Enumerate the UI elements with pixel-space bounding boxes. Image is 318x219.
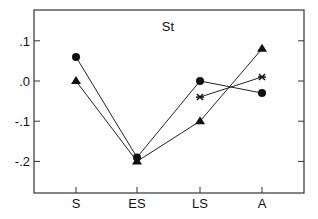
series-group xyxy=(71,44,267,165)
circle-marker xyxy=(258,89,266,97)
star-marker xyxy=(196,94,204,100)
x-tick-label: LS xyxy=(192,196,208,211)
x-axis: SESLSA xyxy=(72,187,267,211)
circle-marker xyxy=(196,77,204,85)
y-axis: .1.0-.1-.2 xyxy=(15,34,304,170)
triangle-series-line xyxy=(76,49,262,162)
circle-marker xyxy=(72,53,80,61)
x-tick-label: S xyxy=(72,196,81,211)
triangle-marker xyxy=(257,44,267,52)
y-tick-label: -.2 xyxy=(15,154,30,169)
circle-series-line xyxy=(76,57,262,158)
y-tick-label: .0 xyxy=(19,74,30,89)
y-tick-label: -.1 xyxy=(15,114,30,129)
star-marker xyxy=(258,74,266,80)
star-series-line xyxy=(200,77,262,97)
x-tick-label: A xyxy=(258,196,267,211)
plot-frame xyxy=(34,10,304,193)
y-tick-label: .1 xyxy=(19,34,30,49)
triangle-marker xyxy=(71,76,81,84)
x-tick-label: ES xyxy=(128,196,146,211)
line-chart: St .1.0-.1-.2 SESLSA xyxy=(0,0,318,219)
chart-title: St xyxy=(162,19,175,34)
